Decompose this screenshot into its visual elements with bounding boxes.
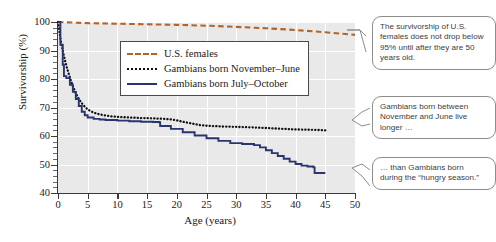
data-series-layer <box>0 0 370 242</box>
figure-root: 100908070605040 05101520253035404550 U.S… <box>0 0 496 242</box>
series-us-females <box>58 22 355 35</box>
survivorship-chart: 100908070605040 05101520253035404550 U.S… <box>0 0 370 242</box>
callout-nov-june: Gambians born between November and June … <box>372 96 496 139</box>
chart-legend: U.S. females Gambians born November–June… <box>120 41 309 96</box>
callout-hungry-season: … than Gambians born during the “hungry … <box>372 157 496 190</box>
dotted-line-key <box>127 64 157 74</box>
legend-item-gambians-july-oct: Gambians born July–October <box>127 76 300 91</box>
legend-item-us-females: U.S. females <box>127 46 300 61</box>
callout-us-females: The survivorship of U.S. females does no… <box>372 16 496 70</box>
legend-label: Gambians born November–June <box>164 63 300 74</box>
legend-item-gambians-nov-june: Gambians born November–June <box>127 61 300 76</box>
y-axis-title: Survivorship (%) <box>16 0 28 152</box>
solid-line-key <box>127 79 157 89</box>
legend-label: U.S. females <box>164 48 218 59</box>
legend-label: Gambians born July–October <box>164 78 288 89</box>
dashed-line-key <box>127 49 157 59</box>
x-axis-title: Age (years) <box>140 214 280 226</box>
